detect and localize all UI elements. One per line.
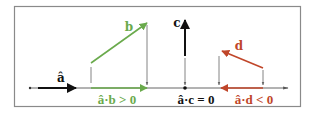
c-label: c — [173, 16, 180, 30]
a-dot-b-equation: â·b > 0 — [98, 92, 136, 107]
a-hat-label: â — [57, 71, 65, 85]
c-projection-dot — [183, 86, 187, 90]
axis-start-dot — [29, 87, 31, 89]
dot-product-diagram: â b â·b > 0 c â·c = 0 d â·d < 0 — [0, 0, 313, 114]
a-dot-d-equation: â·d < 0 — [235, 92, 273, 107]
d-label: d — [235, 39, 244, 53]
b-label: b — [125, 20, 133, 34]
a-dot-c-equation: â·c = 0 — [177, 92, 214, 107]
